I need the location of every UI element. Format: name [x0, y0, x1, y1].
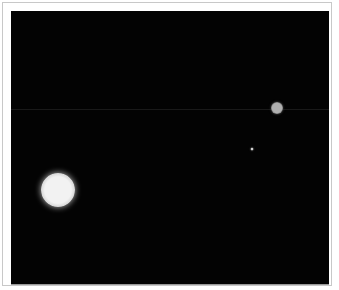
large-bright-body [41, 173, 75, 207]
small-dim-body [271, 102, 283, 114]
tiny-point [251, 148, 254, 151]
night-sky-photo [11, 11, 329, 285]
